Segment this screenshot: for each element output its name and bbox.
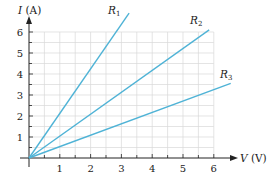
x-tick-label: 2 xyxy=(87,163,93,174)
x-tick-label: 3 xyxy=(118,163,124,174)
chart-axes xyxy=(20,16,238,167)
x-axis-label: V (V) xyxy=(240,152,267,164)
x-tick-label: 6 xyxy=(211,163,217,174)
y-tick-label: 4 xyxy=(17,69,23,80)
y-axis-label: I (A) xyxy=(17,4,41,16)
x-tick-label: 5 xyxy=(180,163,186,174)
series-label-r2: R2 xyxy=(189,14,202,28)
series-line-r1 xyxy=(29,13,129,158)
y-tick-label: 5 xyxy=(17,48,23,59)
y-tick-label: 2 xyxy=(17,111,23,122)
y-tick-label: 3 xyxy=(17,90,23,101)
series-label-r3: R3 xyxy=(219,68,232,82)
series-line-r3 xyxy=(29,83,231,158)
iv-chart: 123456123456 I (A) V (V) R1 R2 R3 xyxy=(0,0,270,179)
x-tick-label: 1 xyxy=(57,163,63,174)
series-label-r1: R1 xyxy=(107,4,120,18)
chart-series xyxy=(29,13,231,158)
x-tick-label: 4 xyxy=(149,163,155,174)
series-line-r2 xyxy=(29,30,209,158)
y-tick-label: 6 xyxy=(17,27,23,38)
y-axis-arrow-icon xyxy=(26,16,32,24)
y-tick-label: 1 xyxy=(17,132,23,143)
x-axis-arrow-icon xyxy=(230,155,238,161)
